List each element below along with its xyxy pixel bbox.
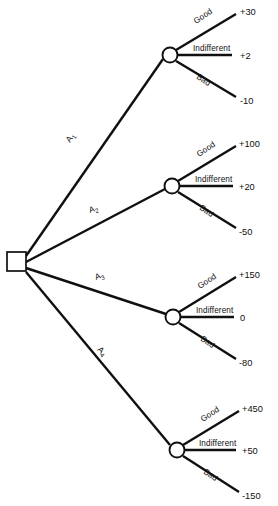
chance-node-a4[interactable]	[170, 443, 185, 458]
chance-node-a2[interactable]	[165, 179, 180, 194]
outcome-value-a3-indifferent: 0	[240, 313, 245, 323]
branch-label-a1: A1	[63, 131, 78, 145]
outcome-label-a4-bad: Bad	[202, 467, 220, 483]
decision-node-root[interactable]	[7, 252, 26, 271]
tree-canvas: A1 Good Indifferent Bad +30 +2 -10 A2 Go…	[0, 0, 278, 506]
outcome-value-a2-bad: -50	[239, 227, 252, 237]
branch-label-a3: A3	[93, 269, 106, 283]
outcome-label-a2-indifferent: Indifferent	[195, 175, 233, 184]
outcome-value-a1-indifferent: +2	[240, 51, 251, 61]
outcome-value-a4-bad: -150	[242, 491, 261, 501]
outcome-value-a1-good: +30	[240, 7, 256, 17]
outcome-label-a2-good: Good	[195, 140, 217, 159]
branch-group-a2: A2 Good Indifferent Bad +100 +20 -50	[26, 139, 260, 262]
outcome-label-a1-indifferent: Indifferent	[193, 44, 231, 53]
outcome-value-a4-indifferent: +50	[242, 446, 258, 456]
outcome-label-a3-indifferent: Indifferent	[196, 306, 234, 315]
outcome-label-a3-good: Good	[196, 272, 218, 291]
outcome-label-a4-good: Good	[199, 405, 221, 424]
outcome-value-a2-good: +100	[239, 139, 260, 149]
outcome-value-a4-good: +450	[242, 404, 263, 414]
outcome-label-a2-bad: Bad	[198, 203, 216, 219]
outcome-value-a3-bad: -80	[239, 358, 252, 368]
chance-node-a3[interactable]	[166, 310, 181, 325]
decision-tree-diagram: A1 Good Indifferent Bad +30 +2 -10 A2 Go…	[0, 0, 278, 506]
outcome-value-a1-bad: -10	[240, 96, 253, 106]
chance-node-a1[interactable]	[163, 48, 178, 63]
branch-group-a3: A3 Good Indifferent Bad +150 0 -80	[26, 268, 260, 368]
branch-line-a4	[26, 272, 170, 445]
outcome-value-a3-good: +150	[239, 270, 260, 280]
outcome-label-a3-bad: Bad	[199, 334, 217, 350]
outcome-label-a1-bad: Bad	[195, 72, 213, 88]
outcome-label-a4-indifferent: Indifferent	[199, 439, 237, 448]
outcome-label-a1-good: Good	[192, 7, 214, 26]
outcome-value-a2-indifferent: +20	[239, 182, 255, 192]
branch-label-a2: A2	[87, 202, 100, 216]
